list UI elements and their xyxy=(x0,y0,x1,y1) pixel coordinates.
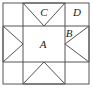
region-label-c: C xyxy=(40,6,48,18)
star-block-diagram: A B C D xyxy=(0,0,93,88)
region-label-d: D xyxy=(72,6,81,18)
figure-container: A B C D xyxy=(0,0,93,88)
region-label-b: B xyxy=(66,27,73,39)
region-label-a: A xyxy=(39,38,47,50)
